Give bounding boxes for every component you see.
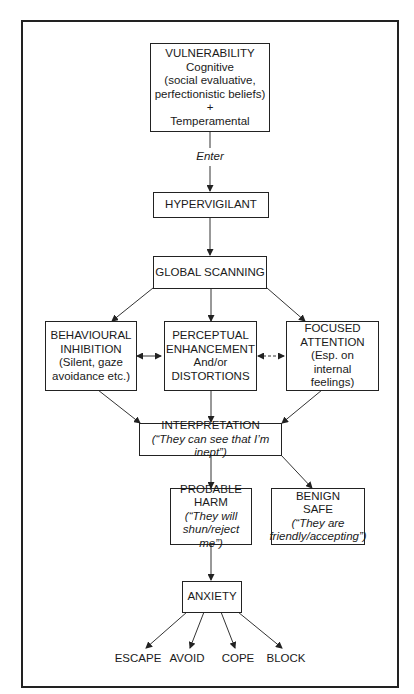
edge-anxiety-escape xyxy=(146,612,187,648)
perceptual-line: PERCEPTUAL xyxy=(172,329,249,343)
interpretation-title: INTERPRETATION xyxy=(161,419,260,433)
interpretation-quote: (“They can see that I’m inept”) xyxy=(140,433,281,460)
vulnerability-line: Temperamental xyxy=(170,115,249,129)
node-perceptual-enhancement: PERCEPTUAL ENHANCEMENT And/or DISTORTION… xyxy=(164,321,257,391)
edge-anxiety-avoid xyxy=(190,612,204,648)
behavioural-line: avoidance etc.) xyxy=(52,370,130,384)
node-global-scanning: GLOBAL SCANNING xyxy=(153,256,267,289)
focused-line: ATTENTION xyxy=(300,336,364,350)
behavioural-line: BEHAVIOURAL xyxy=(51,329,132,343)
vulnerability-line: + xyxy=(207,101,214,115)
edge-behavioural-interpretation xyxy=(98,390,140,423)
focused-line: (Esp. on xyxy=(311,349,354,363)
node-focused-attention: FOCUSED ATTENTION (Esp. on internal feel… xyxy=(286,321,379,391)
vulnerability-line: Cognitive xyxy=(186,61,234,75)
harm-line: PROBABLE xyxy=(180,483,242,497)
node-probable-harm: PROBABLE HARM (“They will shun/reject me… xyxy=(170,488,252,545)
global-scanning-title: GLOBAL SCANNING xyxy=(155,266,265,280)
perceptual-line: DISTORTIONS xyxy=(171,370,249,384)
edge-interpretation-benign xyxy=(281,455,312,488)
vulnerability-title: VULNERABILITY xyxy=(165,47,254,61)
edge-anxiety-block xyxy=(238,612,282,648)
edge-anxiety-cope xyxy=(221,612,235,648)
node-anxiety: ANXIETY xyxy=(182,581,242,613)
harm-quote: (“They will xyxy=(185,510,237,524)
harm-line: HARM xyxy=(194,496,228,510)
benign-quote: friendly/accepting”) xyxy=(269,530,366,544)
node-vulnerability: VULNERABILITY Cognitive (social evaluati… xyxy=(150,43,270,132)
harm-quote: shun/reject me”) xyxy=(171,523,251,550)
node-behavioural-inhibition: BEHAVIOURAL INHIBITION (Silent, gaze avo… xyxy=(45,321,137,391)
benign-line: BENIGN xyxy=(296,490,340,504)
outcome-avoid: AVOID xyxy=(167,652,207,664)
node-interpretation: INTERPRETATION (“They can see that I’m i… xyxy=(139,423,282,456)
perceptual-line: ENHANCEMENT xyxy=(166,343,255,357)
enter-label: Enter xyxy=(190,150,230,162)
edge-global-focused xyxy=(267,288,305,321)
perceptual-line: And/or xyxy=(194,356,228,370)
anxiety-title: ANXIETY xyxy=(187,590,236,604)
outcome-cope: COPE xyxy=(220,652,256,664)
node-benign-safe: BENIGN SAFE (“They are friendly/acceptin… xyxy=(271,488,365,545)
benign-line: SAFE xyxy=(303,503,333,517)
hypervigilant-title: HYPERVIGILANT xyxy=(165,198,257,212)
behavioural-line: INHIBITION xyxy=(60,343,121,357)
edge-focused-interpretation xyxy=(282,390,322,423)
benign-quote: (“They are xyxy=(291,517,344,531)
focused-line: internal xyxy=(314,363,352,377)
outcome-block: BLOCK xyxy=(264,652,308,664)
focused-line: feelings) xyxy=(311,376,354,390)
edge-global-behavioural xyxy=(112,288,153,321)
node-hypervigilant: HYPERVIGILANT xyxy=(153,192,269,218)
behavioural-line: (Silent, gaze xyxy=(59,356,123,370)
vulnerability-line: (social evaluative, xyxy=(164,74,255,88)
focused-line: FOCUSED xyxy=(304,322,360,336)
vulnerability-line: perfectionistic beliefs) xyxy=(155,88,266,102)
outcome-escape: ESCAPE xyxy=(113,652,163,664)
